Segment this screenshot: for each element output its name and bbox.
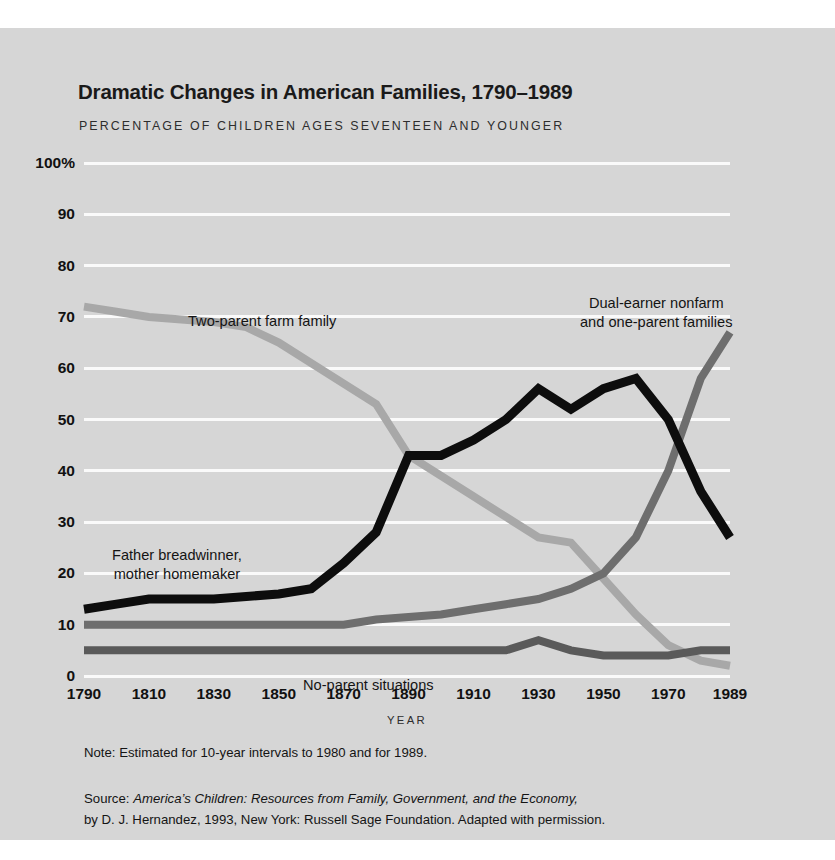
chart-title: Dramatic Changes in American Families, 1… [78, 80, 572, 104]
y-axis-tick-label: 30 [58, 513, 75, 531]
y-axis-tick-label: 80 [58, 257, 75, 275]
plot-area: 0102030405060708090100% 1790181018301850… [84, 163, 730, 676]
annotation-dual-earner-line1: Dual-earner nonfarm [580, 294, 733, 313]
y-axis-tick-label: 20 [58, 564, 75, 582]
y-axis-tick-label: 90 [58, 205, 75, 223]
y-axis-tick-label: 70 [58, 308, 75, 326]
source-rest: by D. J. Hernandez, 1993, New York: Russ… [84, 812, 605, 827]
x-axis-tick-label: 1989 [713, 685, 747, 703]
x-axis-tick-label: 1810 [132, 685, 166, 703]
x-axis-label: YEAR [387, 714, 427, 726]
x-axis-tick-label: 1790 [67, 685, 101, 703]
y-axis-tick-label: 100% [35, 154, 75, 172]
x-axis-tick-label: 1850 [262, 685, 296, 703]
chart-source: Source: America’s Children: Resources fr… [84, 789, 605, 831]
series-line [84, 307, 730, 666]
annotation-dual-earner: Dual-earner nonfarm and one-parent famil… [580, 294, 733, 333]
y-axis-tick-label: 50 [58, 411, 75, 429]
y-axis-tick-label: 40 [58, 462, 75, 480]
x-axis-tick-label: 1930 [521, 685, 555, 703]
y-axis-tick-label: 60 [58, 359, 75, 377]
annotation-father-breadwinner-line2: mother homemaker [112, 565, 242, 584]
annotation-no-parent-situations: No-parent situations [303, 676, 434, 695]
x-axis-tick-label: 1970 [651, 685, 685, 703]
annotation-two-parent-farm-family: Two-parent farm family [188, 312, 336, 331]
annotation-father-breadwinner-line1: Father breadwinner, [112, 546, 242, 565]
figure-panel: Dramatic Changes in American Families, 1… [0, 28, 835, 840]
y-axis-tick-label: 0 [66, 667, 75, 685]
annotation-dual-earner-line2: and one-parent families [580, 313, 733, 332]
source-prefix: Source: [84, 791, 133, 806]
x-axis-tick-label: 1950 [586, 685, 620, 703]
y-axis-tick-label: 10 [58, 616, 75, 634]
x-axis-tick-label: 1830 [197, 685, 231, 703]
series-lines [84, 163, 730, 676]
source-title: America’s Children: Resources from Famil… [133, 791, 578, 806]
series-line [84, 640, 730, 655]
chart-note: Note: Estimated for 10-year intervals to… [84, 745, 427, 760]
x-axis-tick-label: 1910 [456, 685, 490, 703]
chart-subtitle: PERCENTAGE OF CHILDREN AGES SEVENTEEN AN… [79, 119, 564, 133]
annotation-father-breadwinner: Father breadwinner, mother homemaker [112, 546, 242, 585]
